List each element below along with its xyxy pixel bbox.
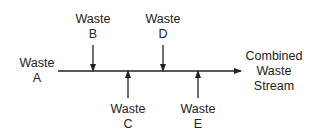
waste-d-label: Waste D [143, 12, 183, 42]
waste-b-label: Waste B [73, 12, 113, 42]
combined-waste-stream-label: Combined Waste Stream [243, 49, 305, 94]
waste-c-label: Waste C [108, 102, 148, 132]
waste-a-label: Waste A [17, 56, 57, 86]
waste-e-label: Waste E [178, 102, 218, 132]
waste-stream-diagram: Waste A Waste B Waste D Waste C Waste E … [0, 0, 316, 135]
